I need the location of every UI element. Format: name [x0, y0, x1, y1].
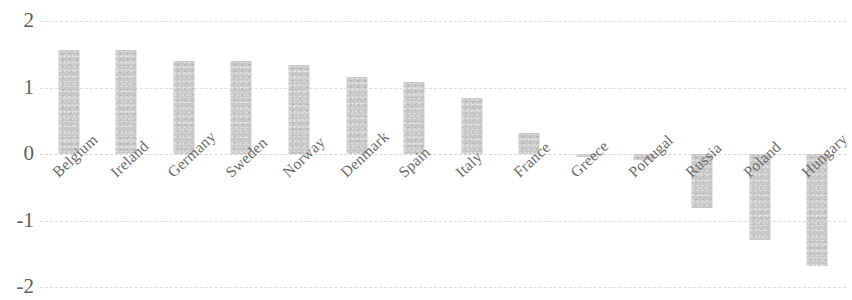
bar: [461, 98, 482, 154]
y-tick-label: -2: [0, 276, 34, 297]
bar: [231, 61, 252, 154]
y-tick-label: 0: [0, 143, 34, 164]
bar: [58, 50, 79, 154]
bar: [173, 61, 194, 154]
y-tick-label: -1: [0, 210, 34, 231]
y-tick-label: 1: [0, 77, 34, 98]
bar-chart: 210-1-2 BelgiumIrelandGermanySwedenNorwa…: [0, 0, 852, 300]
plot-area: [40, 0, 846, 300]
y-tick-label: 2: [0, 10, 34, 31]
bar: [116, 50, 137, 154]
